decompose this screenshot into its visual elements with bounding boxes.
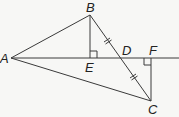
label-a: A xyxy=(0,52,9,65)
segment-ab xyxy=(11,15,90,58)
label-c: C xyxy=(148,103,157,116)
label-e: E xyxy=(85,61,94,74)
right-angle-mark-e xyxy=(90,51,97,58)
label-f: F xyxy=(149,44,157,57)
label-d: D xyxy=(122,44,131,57)
diagram-canvas xyxy=(0,0,179,117)
right-angle-mark-f xyxy=(144,58,151,65)
geometry-diagram: A B E D F C xyxy=(0,0,179,117)
segment-ac xyxy=(11,58,151,101)
label-b: B xyxy=(86,1,95,14)
